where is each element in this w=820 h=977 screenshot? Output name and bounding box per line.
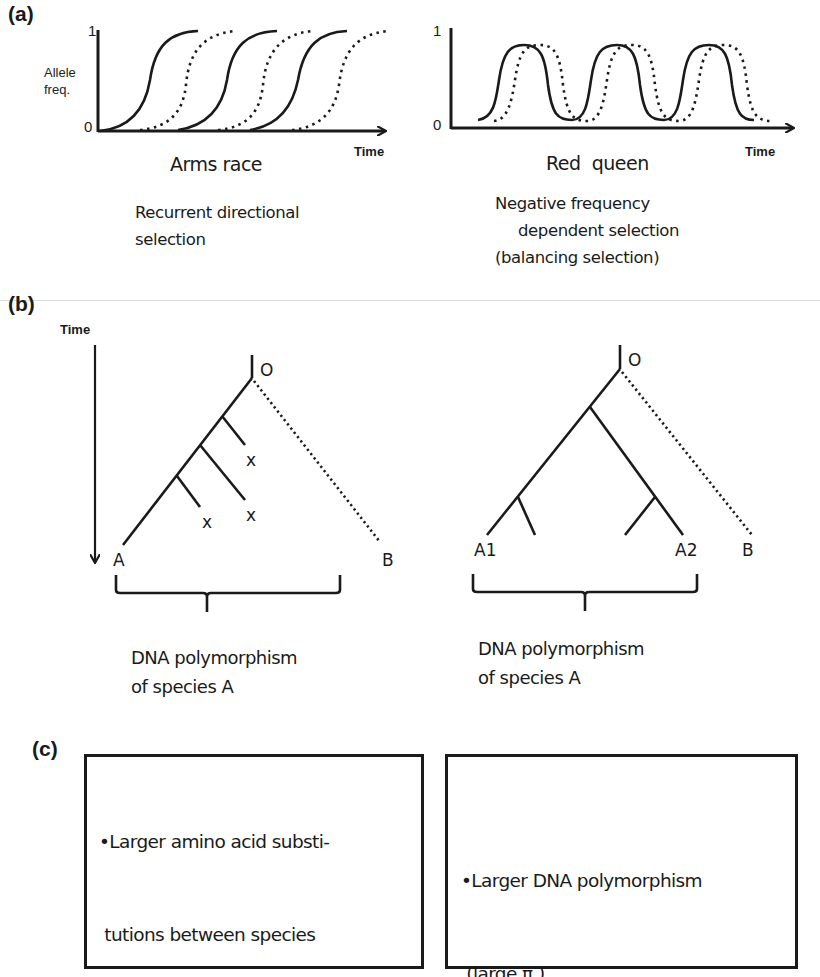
red-queen-solid-curve xyxy=(478,45,754,120)
left-tree xyxy=(123,355,380,545)
right-tree-brace xyxy=(473,574,697,611)
arms-race-dotted-curves xyxy=(140,31,388,130)
right-tree xyxy=(487,345,752,535)
figure-graphics xyxy=(0,0,820,977)
arms-race-solid-curves xyxy=(100,31,347,131)
left-tree-brace xyxy=(116,575,340,612)
